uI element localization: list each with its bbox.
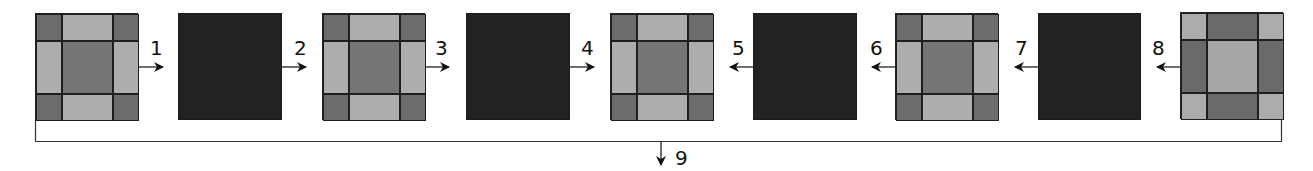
- step-label-8: 8: [1152, 38, 1165, 58]
- arrows-layer: [0, 0, 1313, 171]
- quilt-sequence-diagram: 1 2 3 4 5 6 7 8 9: [0, 0, 1313, 171]
- bracket-line: [36, 119, 1282, 142]
- step-label-5: 5: [732, 38, 745, 58]
- step-label-6: 6: [870, 38, 883, 58]
- step-label-2: 2: [294, 38, 307, 58]
- step-label-7: 7: [1015, 38, 1028, 58]
- step-label-9: 9: [675, 148, 688, 168]
- step-label-1: 1: [150, 38, 163, 58]
- step-label-4: 4: [581, 38, 594, 58]
- step-label-3: 3: [435, 38, 448, 58]
